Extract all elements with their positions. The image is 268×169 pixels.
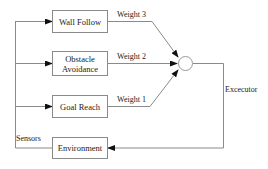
environment-label: Environment [58,143,102,153]
environment-box: Environment [52,137,108,159]
goal-reach-box: Goal Reach [52,95,108,118]
executor-label: Excecutor [225,85,257,94]
sensors-label: Sensors [16,134,41,143]
obstacle-avoidance-label-line2: Avoidance [62,64,98,74]
weight-3-label: Weight 3 [117,10,146,19]
obstacle-avoidance-label-line1: Obstacle [65,54,95,64]
weight-1-label: Weight 1 [117,95,146,104]
wall-follow-label: Wall Follow [59,17,101,27]
wall-follow-box: Wall Follow [52,10,108,33]
goal-reach-label: Goal Reach [60,102,100,112]
weight-2-label: Weight 2 [117,52,146,61]
obstacle-avoidance-box: Obstacle Avoidance [52,51,108,76]
summation-node-icon [178,56,193,71]
